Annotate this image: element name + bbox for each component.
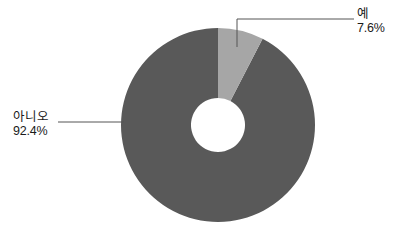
callout-category-aniyo: 아니오 [13,110,48,124]
chart-canvas: 아니오 92.4% 예 7.6% [0,0,405,237]
callout-category-ye: 예 [357,7,385,21]
donut-slices [121,28,315,222]
callout-label-ye: 예 7.6% [357,7,385,35]
callout-percent-aniyo: 92.4% [13,124,48,138]
callout-label-aniyo: 아니오 92.4% [13,110,48,138]
donut-chart [0,0,405,237]
callout-percent-ye: 7.6% [357,21,385,35]
